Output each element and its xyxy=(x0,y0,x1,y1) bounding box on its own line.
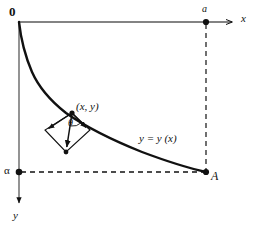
origin-label: 0 xyxy=(9,5,16,18)
dot-xy-marker xyxy=(69,110,74,115)
figure-canvas xyxy=(0,0,257,230)
math-figure: 0 a x y α A (x, y) θ y = y (x) xyxy=(0,0,257,230)
a-axis-label: a xyxy=(202,4,207,14)
alpha-label: α xyxy=(4,165,10,176)
dot-parallelogram-bottom-marker xyxy=(64,150,69,155)
theta-label: θ xyxy=(68,118,73,128)
x-axis-label: x xyxy=(241,13,246,24)
point-A-label: A xyxy=(211,170,218,182)
dot-A-marker xyxy=(203,169,209,175)
dot-alpha-marker xyxy=(16,169,23,176)
point-xy-label: (x, y) xyxy=(76,101,99,112)
y-axis-label: y xyxy=(13,210,18,221)
arrow-down-right-icon xyxy=(72,113,86,128)
dot-a-marker xyxy=(203,19,209,25)
curve-equation-label: y = y (x) xyxy=(139,133,177,144)
curve-path xyxy=(19,22,206,172)
